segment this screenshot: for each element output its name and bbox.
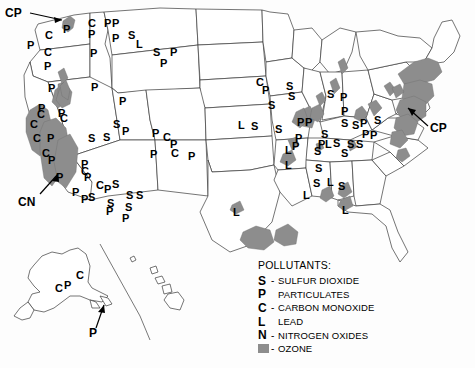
pollutant-marker-s: S [341,118,348,129]
pollutant-marker-s: S [327,89,334,100]
pollutant-marker-s: S [341,148,348,159]
legend-symbol: S [258,274,271,288]
legend-label: PARTICULATES [278,289,349,300]
pollutant-marker-c: C [44,47,52,58]
pollutant-marker-l: L [285,160,292,171]
legend-symbol: P [258,287,271,301]
callout-label-seattle: CP [5,7,22,19]
legend-item-carbon-monoxide: C-CARBON MONOXIDE [258,301,458,315]
pollutant-marker-c: C [37,109,45,120]
pollutant-marker-c: C [171,148,179,159]
pollutant-marker-p: P [262,85,269,96]
legend-item-lead: LLEAD [258,315,458,329]
pollutant-marker-l: L [238,120,245,131]
alaska-inset [14,248,112,320]
pollutant-marker-c: C [96,180,104,191]
pollutant-marker-l: L [233,207,240,218]
pollutant-marker-s: S [352,120,359,131]
legend-label: OZONE [278,343,312,354]
pollutant-marker-p: P [106,206,113,217]
pollutant-marker-p: P [48,155,55,166]
pollutant-marker-p: P [63,24,70,35]
legend-dash: - [271,330,278,341]
pollutant-marker-s: S [313,178,320,189]
pollutant-marker-l: L [285,145,292,156]
pollutant-marker-p: P [56,172,63,183]
pollutant-marker-p: P [84,172,91,183]
pollutant-marker-l: L [342,205,349,216]
hawaii-inset [130,256,184,310]
pollutant-marker-l: L [325,139,332,150]
callout-label-northeast: CP [430,122,447,134]
pollutant-marker-p: P [150,149,157,160]
legend-symbol: C [258,301,271,315]
pollutant-marker-p: P [122,213,129,224]
legend: POLLUTANTS: S-SULFUR DIOXIDEPPARTICULATE… [258,259,458,356]
pollutant-marker-s: S [113,119,120,130]
legend-rows: S-SULFUR DIOXIDEPPARTICULATESC-CARBON MO… [258,274,458,356]
legend-item-sulfur-dioxide: S-SULFUR DIOXIDE [258,274,458,288]
pollutant-marker-p: P [104,184,111,195]
pollutant-marker-p: P [297,117,304,128]
pollutant-marker-l: L [327,177,334,188]
legend-label: CARBON MONOXIDE [278,302,375,313]
legend-symbol: L [258,315,271,329]
pollutant-marker-p: P [170,47,177,58]
legend-item-nitrogen-oxides: N-NITROGEN OXIDES [258,328,458,342]
pollutant-marker-p: P [112,33,119,44]
pollutant-marker-c: C [33,133,41,144]
legend-dash: - [271,302,278,313]
pollutant-marker-s: S [338,181,345,192]
pollutant-marker-s: S [251,121,258,132]
pollutant-marker-p: P [91,82,98,93]
pollutant-marker-p: P [370,130,377,141]
pollutant-marker-c: C [60,113,68,124]
pollution-map: PCPCPPPPSLCPPSPPPPPPCCPCPCSPSSPCPCPPCPPP… [0,0,475,368]
legend-label: LEAD [278,316,303,327]
pollutant-marker-p: P [122,126,129,137]
pollutant-marker-p: P [90,48,97,59]
legend-item-ozone: -OZONE [258,342,458,356]
pollutant-marker-p: P [72,187,79,198]
legend-item-particulates: PPARTICULATES [258,288,458,302]
legend-dash: - [271,275,278,286]
pollutant-marker-p: P [88,29,95,40]
pollutant-marker-p: P [188,151,195,162]
pollutant-marker-s: S [288,91,295,102]
pollutant-marker-c: C [55,283,63,294]
pollutant-marker-s: S [333,138,340,149]
pollutant-marker-p: P [292,141,299,152]
pollutant-marker-s: S [275,124,282,135]
pollutant-marker-s: S [268,100,275,111]
callout-label-california: CN [18,196,35,208]
pollutant-marker-p: P [112,18,119,29]
pollutant-marker-s: S [356,139,363,150]
pollutant-marker-p: P [340,92,347,103]
pollutant-marker-p: P [160,58,167,69]
pollutant-marker-s: S [88,133,95,144]
legend-label: NITROGEN OXIDES [278,330,368,341]
pollutant-marker-c: C [30,119,38,130]
legend-label: SULFUR DIOXIDE [278,275,359,286]
pollutant-marker-s: S [126,190,133,201]
ozone-swatch-icon [258,344,269,353]
pollutant-marker-p: P [48,83,55,94]
callout-label-aleutians: P [89,327,97,339]
pollutant-marker-p: P [27,40,34,51]
pollutant-marker-s: S [314,146,321,157]
pollutant-marker-s: S [128,30,135,41]
pollutant-marker-s: S [374,115,381,126]
pollutant-marker-p: P [152,128,159,139]
pollutant-marker-p: P [305,117,312,128]
pollutant-marker-p: P [104,18,111,29]
legend-symbol: N [258,328,271,342]
pollutant-marker-p: P [119,96,126,107]
pollutant-marker-s: S [136,190,143,201]
pollutant-marker-s: S [103,132,110,143]
legend-title: POLLUTANTS: [258,259,458,271]
pollutant-marker-p: P [44,61,51,72]
legend-dash: - [271,343,278,354]
pollutant-marker-c: C [45,30,53,41]
pollutant-marker-s: S [315,163,322,174]
pollutant-marker-l: L [136,39,143,50]
